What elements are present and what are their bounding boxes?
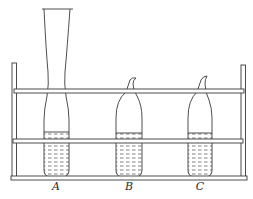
tube-a-label: A xyxy=(52,180,60,193)
rack-middle-bar xyxy=(13,139,243,143)
tube-c-label: C xyxy=(196,180,204,193)
rack-right-post xyxy=(241,65,246,177)
rack-top-bar xyxy=(14,89,244,93)
tube-b-label: B xyxy=(125,180,133,193)
rack-left-post xyxy=(12,63,17,177)
test-tube-rack-diagram xyxy=(0,0,253,199)
